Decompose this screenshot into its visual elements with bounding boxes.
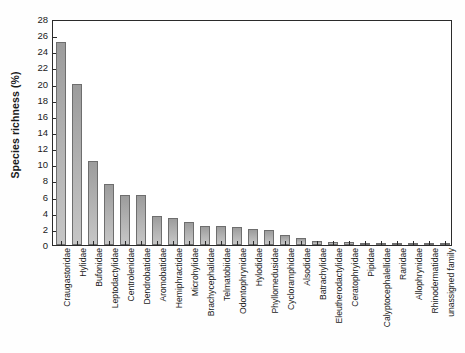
- x-tick-mark: [301, 241, 302, 245]
- bar: [104, 184, 115, 245]
- x-tick-label: Allophrynidae: [415, 248, 424, 300]
- x-tick-mark: [365, 241, 366, 245]
- x-tick-mark: [253, 241, 254, 245]
- y-tick-label: 22: [37, 64, 48, 74]
- y-tick-label: 18: [37, 96, 48, 106]
- x-tick-label: Aromobatidae: [159, 248, 168, 302]
- x-tick-label: Alsodidae: [303, 248, 312, 286]
- x-tick-mark: [333, 241, 334, 245]
- y-tick-label: 16: [37, 112, 48, 122]
- y-tick-label: 24: [37, 48, 48, 58]
- x-tick-label: Craugastoridae: [63, 248, 72, 307]
- bar: [56, 42, 67, 245]
- x-tick-label: Microhylidae: [191, 248, 200, 296]
- x-tick-label: Phyllomedusidae: [271, 248, 280, 313]
- bar: [72, 84, 83, 245]
- plot-inner: [53, 21, 451, 245]
- y-tick-label: 0: [43, 241, 48, 251]
- y-tick-label: 2: [43, 225, 48, 235]
- x-tick-mark: [317, 241, 318, 245]
- x-tick-mark: [125, 241, 126, 245]
- x-tick-mark: [397, 241, 398, 245]
- x-tick-label: Ranidae: [399, 248, 408, 280]
- x-tick-label: Calyptocephalellidae: [383, 248, 392, 327]
- x-tick-label: Ceratophryidae: [351, 248, 360, 307]
- x-tick-mark: [221, 241, 222, 245]
- x-tick-label: Eleutherodactylidae: [335, 248, 344, 324]
- x-tick-mark: [141, 241, 142, 245]
- x-tick-mark: [445, 241, 446, 245]
- x-tick-mark: [349, 241, 350, 245]
- x-tick-mark: [173, 241, 174, 245]
- x-tick-mark: [429, 241, 430, 245]
- x-tick-mark: [93, 241, 94, 245]
- species-richness-bar-chart: Species richness (%) 0246810121416182022…: [0, 0, 465, 353]
- x-tick-label: Rhinodermatidae: [431, 248, 440, 313]
- x-tick-label: Hemiphractidae: [175, 248, 184, 308]
- x-tick-label: Hylodidae: [255, 248, 264, 286]
- x-tick-label: Cycloramphidae: [287, 248, 296, 310]
- x-tick-mark: [413, 241, 414, 245]
- x-tick-mark: [109, 241, 110, 245]
- x-tick-mark: [61, 241, 62, 245]
- x-tick-label: Bufonidae: [95, 248, 104, 287]
- y-tick-label: 6: [43, 193, 48, 203]
- x-tick-label: Leptodactylidae: [111, 248, 120, 308]
- x-tick-mark: [157, 241, 158, 245]
- bar: [120, 195, 131, 245]
- y-axis-title: Species richness (%): [4, 0, 26, 250]
- y-tick-label: 26: [37, 31, 48, 41]
- y-tick-mark: [53, 37, 57, 38]
- x-tick-label: Centrolenidae: [127, 248, 136, 302]
- x-tick-label: Dendrobatidae: [143, 248, 152, 304]
- bar: [88, 161, 99, 245]
- x-tick-label: Telmatobiidae: [223, 248, 232, 301]
- x-tick-label: Hylidae: [79, 248, 88, 277]
- y-tick-label: 20: [37, 80, 48, 90]
- x-tick-mark: [381, 241, 382, 245]
- x-tick-mark: [205, 241, 206, 245]
- bar: [136, 195, 147, 245]
- y-tick-label: 4: [43, 209, 48, 219]
- y-axis-title-text: Species richness (%): [9, 71, 21, 178]
- x-tick-mark: [285, 241, 286, 245]
- y-axis-tick-labels: 0246810121416182022242628: [26, 20, 48, 246]
- x-tick-label: Pipidae: [367, 248, 376, 277]
- plot-area: [52, 20, 452, 246]
- x-tick-label: Odontophrynidae: [239, 248, 248, 314]
- x-tick-label: unassigned family: [447, 248, 456, 317]
- y-tick-label: 10: [37, 161, 48, 171]
- y-tick-label: 12: [37, 144, 48, 154]
- y-tick-label: 14: [37, 128, 48, 138]
- x-tick-mark: [189, 241, 190, 245]
- x-tick-mark: [269, 241, 270, 245]
- y-tick-label: 28: [37, 15, 48, 25]
- y-tick-label: 8: [43, 177, 48, 187]
- x-axis-tick-labels: CraugastoridaeHylidaeBufonidaeLeptodacty…: [52, 248, 452, 352]
- x-tick-mark: [77, 241, 78, 245]
- x-tick-label: Batrachylidae: [319, 248, 328, 300]
- x-tick-mark: [237, 241, 238, 245]
- x-tick-label: Brachycephalidae: [207, 248, 216, 316]
